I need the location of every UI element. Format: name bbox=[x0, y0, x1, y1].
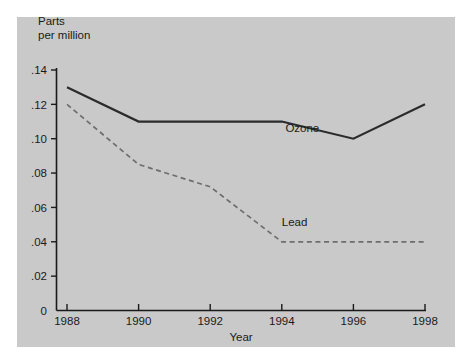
y-tick-label: .02 bbox=[31, 270, 47, 282]
data-series-group bbox=[67, 87, 425, 242]
x-axis-ticks: 198819901992199419961998 bbox=[54, 304, 438, 327]
x-tick-label: 1988 bbox=[54, 315, 80, 327]
x-axis-title: Year bbox=[229, 331, 252, 343]
y-axis-ticks: 0.02.04.06.08.10.12.14 bbox=[31, 64, 56, 317]
series-annotations: OzoneLead bbox=[282, 122, 319, 228]
chart-screenshot: Parts per million 0.02.04.06.08.10.12.14… bbox=[0, 0, 472, 364]
y-tick-label: .10 bbox=[31, 133, 47, 145]
y-tick-label: .14 bbox=[31, 64, 48, 76]
series-line-ozone bbox=[67, 87, 425, 139]
y-tick-label: .06 bbox=[31, 202, 47, 214]
line-chart: 0.02.04.06.08.10.12.14 19881990199219941… bbox=[0, 0, 472, 364]
x-tick-label: 1998 bbox=[412, 315, 438, 327]
x-tick-label: 1992 bbox=[197, 315, 223, 327]
axes-group bbox=[57, 68, 427, 311]
y-tick-label: .12 bbox=[31, 99, 47, 111]
series-label-lead: Lead bbox=[282, 216, 308, 228]
y-tick-label: 0 bbox=[41, 305, 47, 317]
series-line-lead bbox=[67, 104, 425, 241]
y-tick-label: .08 bbox=[31, 167, 47, 179]
series-label-ozone: Ozone bbox=[285, 122, 319, 134]
y-tick-label: .04 bbox=[31, 236, 48, 248]
x-tick-label: 1996 bbox=[341, 315, 367, 327]
x-tick-label: 1994 bbox=[269, 315, 295, 327]
x-tick-label: 1990 bbox=[126, 315, 152, 327]
